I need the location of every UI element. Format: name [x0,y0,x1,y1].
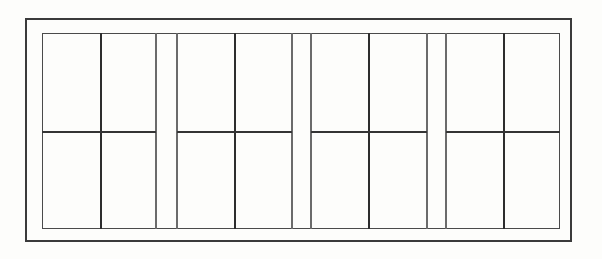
mid-rail-segment [446,131,560,133]
scan-page [0,0,602,259]
mid-rail-segment [177,131,292,133]
mid-rail-segment [42,131,156,133]
mid-rail-segment [311,131,427,133]
